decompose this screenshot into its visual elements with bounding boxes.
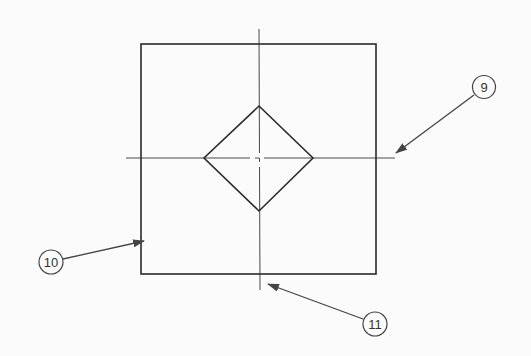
technical-drawing: 9 10 11 [0, 0, 531, 356]
leader-arrow-11 [268, 284, 363, 319]
callout-label-10: 10 [44, 255, 58, 270]
callout-10: 10 [39, 241, 144, 274]
callout-label-11: 11 [368, 317, 382, 332]
leader-arrow-10 [63, 241, 144, 259]
outer-square [141, 44, 376, 274]
callout-11: 11 [268, 284, 387, 336]
diamond-hole [204, 106, 313, 211]
callout-label-9: 9 [480, 80, 487, 95]
leader-arrow-9 [396, 95, 474, 153]
vertical-centerline [259, 29, 260, 290]
callout-9: 9 [396, 76, 496, 154]
drawing-canvas: 9 10 11 [0, 0, 531, 356]
